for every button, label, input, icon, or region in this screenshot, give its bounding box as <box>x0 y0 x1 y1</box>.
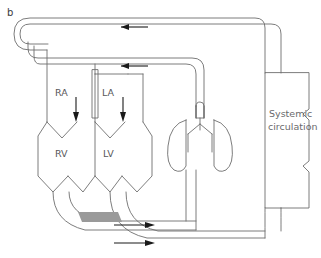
vena-cava-tube <box>14 18 281 73</box>
circulation-diagram: RA LA RV LV Systemic circulation b <box>0 0 321 258</box>
systemic-circulation-box <box>265 73 309 208</box>
ra-inflow-arrow <box>73 97 79 122</box>
inflow-arrow-upper <box>121 24 148 30</box>
pulmonary-artery-outflow <box>53 192 196 230</box>
lungs-icon <box>168 102 233 171</box>
shunt-band-icon <box>78 212 122 222</box>
systemic-vessels <box>265 208 281 238</box>
label-ra: RA <box>55 87 68 98</box>
label-lv: LV <box>103 148 114 159</box>
label-systemic-line1: Systemic <box>269 108 312 119</box>
left-atrium <box>95 74 143 138</box>
label-systemic-line2: circulation <box>268 121 317 132</box>
label-rv: RV <box>55 148 68 159</box>
outflow-arrow-lower <box>114 240 155 246</box>
aorta-outflow <box>110 192 265 238</box>
label-la: LA <box>102 87 115 98</box>
pulmonary-vein-tube <box>28 42 204 118</box>
figure-container: RA LA RV LV Systemic circulation b <box>0 0 321 258</box>
la-inflow-arrow <box>120 97 126 122</box>
panel-label: b <box>7 7 13 18</box>
